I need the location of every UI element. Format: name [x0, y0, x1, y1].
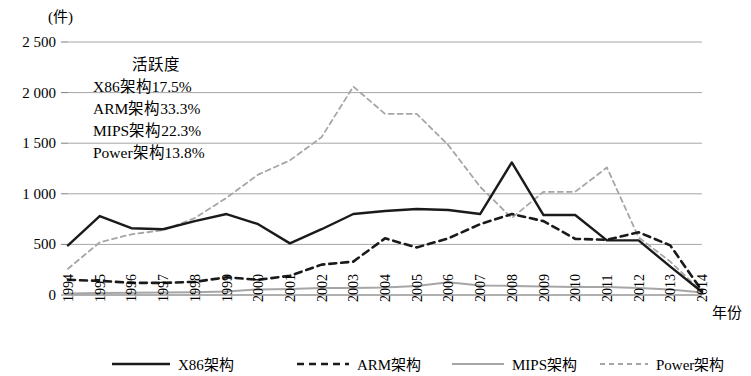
- gridlines-group: 05001 0001 5002 0002 500: [22, 34, 702, 303]
- legend: X86架构ARM架构MIPS架构Power架构: [112, 357, 724, 373]
- annotation-title: 活跃度: [132, 56, 180, 73]
- x-tick-label: 1999: [220, 274, 235, 302]
- x-tick-label: 1998: [188, 274, 203, 302]
- x-tick-label: 2002: [315, 274, 330, 302]
- annotation-line: MIPS架构22.3%: [93, 122, 201, 139]
- x-tick-label: 2010: [568, 274, 583, 302]
- x-axis-title: 年份: [712, 305, 742, 321]
- line-chart: (件)05001 0001 5002 0002 5001994199519961…: [0, 0, 751, 376]
- x-tick-label: 2003: [346, 274, 361, 302]
- x-tick-label: 2012: [632, 274, 647, 302]
- series-line-power: [68, 87, 702, 292]
- y-tick-label: 0: [49, 287, 57, 303]
- annotation-line: ARM架构33.3%: [93, 100, 200, 117]
- x-tick-label: 1996: [124, 274, 139, 302]
- legend-label-power: Power架构: [656, 357, 724, 373]
- x-tick-label: 2007: [473, 274, 488, 302]
- y-tick-label: 2 000: [22, 85, 56, 101]
- legend-label-mips: MIPS架构: [512, 357, 577, 373]
- x-tick-label: 2006: [441, 274, 456, 302]
- x-tick-label: 2011: [600, 275, 615, 302]
- y-axis-unit-label: (件): [48, 9, 73, 26]
- x-tick-label: 2000: [251, 274, 266, 302]
- x-tick-label: 2001: [283, 274, 298, 302]
- x-tick-label: 2008: [505, 274, 520, 302]
- x-tick-label: 1994: [61, 274, 76, 302]
- x-axis-labels-group: 1994199519961997199819992000200120022003…: [61, 274, 710, 302]
- legend-label-x86: X86架构: [178, 357, 234, 373]
- annotation-line: Power架构13.8%: [93, 144, 205, 161]
- y-tick-label: 500: [34, 236, 57, 252]
- x-tick-label: 1995: [93, 274, 108, 302]
- x-tick-label: 2013: [663, 274, 678, 302]
- y-tick-label: 1 500: [22, 135, 56, 151]
- series-line-x86: [68, 162, 702, 292]
- legend-label-arm: ARM架构: [357, 357, 421, 373]
- y-tick-label: 2 500: [22, 34, 56, 50]
- y-tick-label: 1 000: [22, 186, 56, 202]
- series-group: [68, 87, 702, 294]
- x-tick-label: 1997: [156, 274, 171, 302]
- x-tick-label: 2014: [695, 274, 710, 302]
- x-tick-label: 2009: [537, 274, 552, 302]
- chart-container: (件)05001 0001 5002 0002 5001994199519961…: [0, 0, 751, 376]
- annotation-line: X86架构17.5%: [93, 78, 192, 95]
- x-tick-label: 2005: [410, 274, 425, 302]
- x-tick-label: 2004: [378, 274, 393, 302]
- annotation-block: 活跃度X86架构17.5%ARM架构33.3%MIPS架构22.3%Power架…: [93, 56, 205, 161]
